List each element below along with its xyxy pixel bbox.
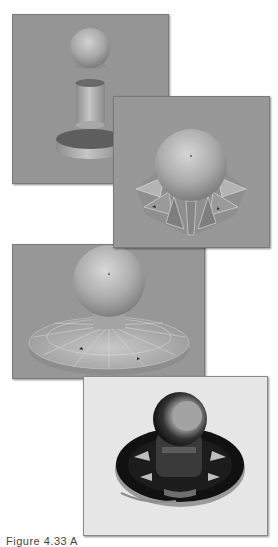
cylinder-shape [76,83,105,125]
sphere-shape [73,245,145,317]
skirt-render [114,97,269,247]
sphere-shape [155,129,227,201]
wide-base-render [13,245,204,378]
rendered-object [84,377,267,535]
figure-caption: Figure 4.33 A [6,535,78,547]
figure-panel-skirt [113,96,270,248]
figure-panel-rendered [83,376,268,536]
figure-panel-wide-base [12,244,205,379]
sphere-shape [70,28,110,68]
